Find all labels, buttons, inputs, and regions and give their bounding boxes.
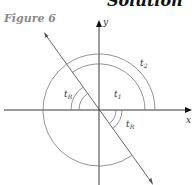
label-t1: t1 [114,89,121,100]
x-axis-label: x [186,115,191,125]
arc-tR-lower-inner [109,110,116,124]
unit-angle-diagram: y x t1 t2 tR tR [0,0,194,185]
label-t2: t2 [140,58,148,69]
x-axis-arrow-icon [185,107,192,113]
arc-tR-lower-outer [112,110,122,129]
arc-tR-upper-outer [71,87,83,110]
y-axis-arrow-icon [96,20,102,27]
y-axis-label: y [102,17,109,27]
arc-tR-upper-inner [79,94,87,110]
label-tR-lower: tR [126,119,135,130]
label-tR-upper: tR [64,89,73,100]
arc-large-lower [43,65,132,167]
diagonal-arrow-upper-icon [44,32,49,38]
y-axis [96,20,102,185]
terminal-side-line [44,32,153,185]
